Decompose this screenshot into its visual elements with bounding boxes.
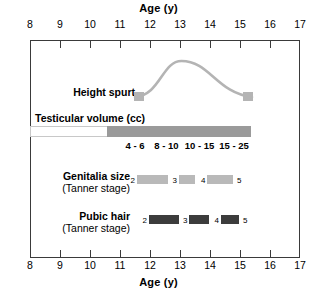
axis-tick-label: 10 (84, 18, 96, 30)
axis-line-bottom (30, 257, 300, 258)
genitalia-stage-number: 5 (237, 176, 241, 185)
pubic-hair-stage-number: 4 (215, 216, 219, 225)
testicular-volume-label: 4 - 6 (125, 140, 144, 151)
pubic-hair-stage-number: 3 (183, 216, 187, 225)
row-label-genitalia-text: Genitalia size (62, 170, 130, 182)
axis-tick-label: 8 (27, 18, 33, 30)
axis-tick (120, 41, 121, 48)
row-label-pubic-hair-sublabel: (Tanner stage) (62, 222, 130, 234)
height-spurt-curve (30, 55, 300, 105)
row-label-testicular-volume: Testicular volume (cc) (35, 112, 145, 124)
axis-tick (240, 41, 241, 48)
axis-title-bottom: Age (y) (0, 276, 317, 288)
row-label-pubic-hair: Pubic hair (Tanner stage) (62, 210, 130, 234)
axis-tick-label: 15 (234, 259, 246, 271)
axis-tick (270, 41, 271, 48)
row-label-genitalia: Genitalia size (Tanner stage) (62, 170, 130, 194)
row-label-testicular-volume-text: Testicular volume (cc) (35, 112, 145, 124)
axis-tick (60, 41, 61, 48)
axis-tick-label: 11 (115, 259, 126, 271)
testicular-volume-label: 15 - 25 (219, 140, 249, 151)
axis-tick-labels-bottom: 891011121314151617 (0, 259, 317, 272)
genitalia-stage-number: 2 (131, 176, 135, 185)
testicular-volume-label: 8 - 10 (154, 140, 178, 151)
genitalia-segment (207, 175, 233, 184)
axis-tick (150, 41, 151, 48)
axis-title-top: Age (y) (0, 2, 317, 14)
axis-tick-label: 11 (115, 18, 126, 30)
axis-tick-label: 9 (57, 259, 63, 271)
axis-tick (180, 41, 181, 48)
height-spurt-end-marker (243, 92, 253, 101)
row-label-genitalia-sublabel: (Tanner stage) (62, 182, 130, 194)
height-spurt-start-marker (134, 92, 144, 101)
axis-tick-label: 13 (174, 259, 186, 271)
axis-tick (90, 250, 91, 257)
puberty-timeline-figure: Age (y) 891011121314151617 Height spurt … (0, 0, 317, 293)
axis-tick-label: 17 (294, 259, 306, 271)
axis-tick (270, 250, 271, 257)
axis-tick (210, 41, 211, 48)
axis-tick (240, 250, 241, 257)
genitalia-stage-number: 4 (201, 176, 205, 185)
axis-tick-label: 15 (234, 18, 246, 30)
axis-tick (120, 250, 121, 257)
axis-tick-label: 10 (84, 259, 96, 271)
axis-tick-label: 17 (294, 18, 306, 30)
axis-tick-labels-top: 891011121314151617 (0, 18, 317, 31)
genitalia-segment (137, 175, 169, 184)
genitalia-segment (179, 175, 196, 184)
pubic-hair-stage-number: 2 (143, 216, 147, 225)
axis-tick-label: 16 (264, 18, 276, 30)
axis-tick-label: 14 (204, 18, 216, 30)
axis-line-top (30, 40, 300, 41)
axis-tick (150, 250, 151, 257)
pubic-hair-segment (149, 215, 179, 224)
axis-tick (210, 250, 211, 257)
axis-tick-label: 12 (144, 18, 156, 30)
axis-tick-label: 13 (174, 18, 186, 30)
axis-tick-label: 16 (264, 259, 276, 271)
axis-tick-label: 9 (57, 18, 63, 30)
genitalia-stage-number: 3 (173, 176, 177, 185)
axis-tick (60, 250, 61, 257)
axis-tick (90, 41, 91, 48)
axis-tick (180, 250, 181, 257)
pubic-hair-segment (189, 215, 209, 224)
axis-tick-label: 8 (27, 259, 33, 271)
testicular-volume-label: 10 - 15 (185, 140, 215, 151)
pubic-hair-segment (221, 215, 239, 224)
testicular-volume-bar-fill (107, 126, 251, 137)
axis-tick-label: 14 (204, 259, 216, 271)
axis-tick-label: 12 (144, 259, 156, 271)
row-label-pubic-hair-text: Pubic hair (62, 210, 130, 222)
pubic-hair-stage-number: 5 (243, 216, 247, 225)
